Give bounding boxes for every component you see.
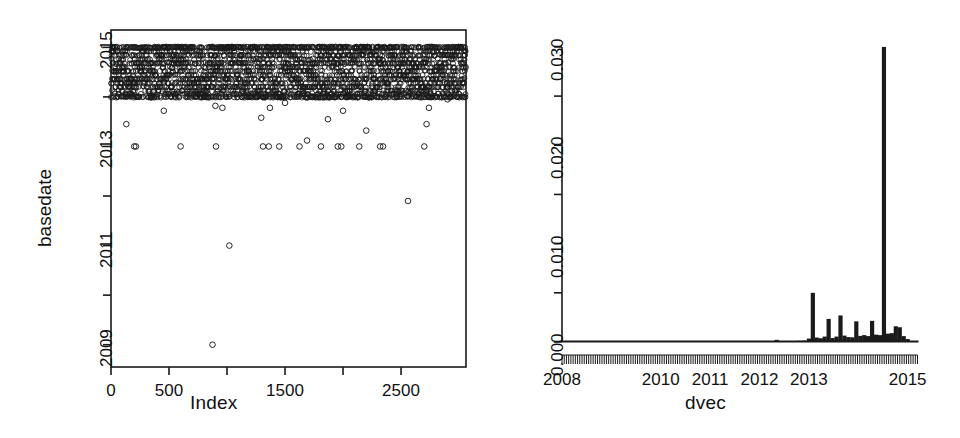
left-scatter-outlier-point <box>210 342 216 348</box>
left-scatter-outlier-point <box>178 144 184 150</box>
right-bar <box>858 336 862 342</box>
left-scatter-outlier-point <box>276 144 282 150</box>
left-plot-group <box>103 30 468 375</box>
left-scatter-outlier-point <box>340 108 346 114</box>
right-bar <box>807 339 811 342</box>
left-scatter-outliers <box>124 97 451 348</box>
left-scatter-outlier-point <box>304 138 310 144</box>
right-bar <box>866 336 870 342</box>
left-scatter-outlier-point <box>220 105 226 111</box>
left-y-tick-label-2015: 2015 <box>97 32 117 70</box>
right-bar <box>831 338 835 342</box>
left-y-tick-label-2013: 2013 <box>97 131 117 169</box>
right-bar <box>846 337 850 342</box>
right-bar <box>910 341 914 342</box>
left-x-tick-label-1500: 1500 <box>255 381 315 401</box>
right-bar <box>886 334 890 342</box>
left-y-tick-label-2011: 2011 <box>97 231 117 268</box>
right-y-tick-label-0010: 0.010 <box>548 235 568 278</box>
left-y-axis-title: basedate <box>34 168 56 246</box>
right-bar <box>870 321 874 342</box>
left-scatter-outlier-point <box>338 144 344 150</box>
right-x-tick-label-2013: 2013 <box>779 370 839 390</box>
left-scatter-outlier-point <box>213 103 219 109</box>
right-bar <box>862 335 866 342</box>
left-scatter-outlier-point <box>424 121 430 127</box>
right-bar <box>819 338 823 342</box>
left-scatter-panel: basedate Index 2015 2013 2011 2009 0 500… <box>0 0 480 438</box>
right-bar <box>842 336 846 342</box>
left-scatter-outlier-point <box>426 105 432 111</box>
left-x-tick-label-2500: 2500 <box>371 381 431 401</box>
right-axis-rug <box>562 355 918 364</box>
right-bar <box>790 341 794 342</box>
left-scatter-outlier-point <box>282 100 288 106</box>
left-scatter-outlier-point <box>363 128 369 134</box>
left-scatter-outlier-point <box>258 115 264 121</box>
right-bar <box>898 327 902 342</box>
right-bar <box>850 337 854 342</box>
right-x-axis-title: dvec <box>685 392 726 414</box>
right-bar <box>902 336 906 342</box>
right-bar <box>874 335 878 342</box>
right-bar <box>878 335 882 342</box>
left-x-tick-label-500: 500 <box>139 381 199 401</box>
left-scatter-outlier-point <box>124 121 130 127</box>
right-bar <box>811 293 815 342</box>
right-bar <box>823 337 827 342</box>
right-bar <box>827 319 831 342</box>
left-scatter-outlier-point <box>161 108 167 114</box>
right-bar <box>797 341 801 342</box>
left-scatter-outlier-point <box>297 144 303 150</box>
left-scatter-outlier-point <box>325 116 331 122</box>
right-x-tick-label-2015: 2015 <box>878 370 938 390</box>
left-x-tick-label-0: 0 <box>81 381 141 401</box>
right-bar <box>838 315 842 342</box>
left-scatter-outlier-point <box>260 144 266 150</box>
left-scatter-plot-area <box>0 0 480 438</box>
right-bar <box>854 321 858 342</box>
left-scatter-outlier-point <box>356 144 362 150</box>
right-y-tick-label-0020: 0.020 <box>548 137 568 180</box>
right-bars <box>775 47 918 342</box>
left-scatter-outlier-point <box>266 144 272 150</box>
right-bar <box>882 47 886 342</box>
right-y-tick-label-0030: 0.030 <box>548 38 568 81</box>
right-x-tick-label-2008: 2008 <box>532 370 592 390</box>
right-density-panel: basedate dvec 0.030 0.020 0.010 0.000 20… <box>480 0 960 438</box>
left-scatter-points <box>109 44 469 100</box>
right-bar <box>906 339 910 342</box>
left-y-tick-label-2009: 2009 <box>97 329 117 367</box>
right-bar <box>775 340 779 342</box>
left-scatter-outlier-point <box>405 198 411 204</box>
right-bar <box>890 333 894 342</box>
right-bar <box>894 326 898 342</box>
left-scatter-outlier-point <box>267 105 273 111</box>
right-bar <box>834 337 838 342</box>
right-plot-group <box>554 47 919 364</box>
right-bar <box>802 341 806 342</box>
left-scatter-outlier-point <box>318 144 324 150</box>
right-bar <box>782 341 786 342</box>
left-scatter-outlier-point <box>227 243 233 249</box>
figure-canvas: basedate Index 2015 2013 2011 2009 0 500… <box>0 0 960 438</box>
left-scatter-outlier-point <box>213 144 219 150</box>
left-scatter-outlier-point <box>421 144 427 150</box>
right-bar <box>815 338 819 342</box>
